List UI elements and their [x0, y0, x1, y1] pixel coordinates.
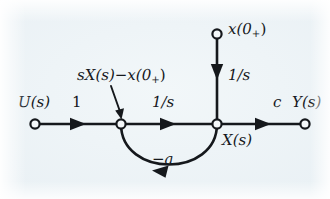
- label-node-output: Y(s): [292, 95, 321, 110]
- node-summing[interactable]: [116, 119, 125, 128]
- label-node-state-text: X(s): [222, 131, 252, 149]
- node-initial-condition[interactable]: [212, 29, 221, 38]
- arrowhead-integrator-branch: [160, 118, 176, 130]
- label-callout-term-b: x(0: [127, 66, 151, 84]
- label-callout-sum-expression: sX(s)−x(0+): [77, 68, 166, 86]
- label-gain-state-to-output: c: [273, 95, 281, 110]
- label-gain-sum-to-state-text: 1/s: [152, 93, 174, 111]
- label-gain-input-to-sum: 1: [72, 95, 82, 110]
- label-gain-state-to-output-text: c: [273, 93, 281, 111]
- signal-flow-graph-figure: U(s) 1 1/s 1/s c Y(s) X(s) x(0+) sX(s)−x…: [0, 0, 330, 199]
- label-gain-feedback-text: −a: [152, 150, 174, 168]
- node-state[interactable]: [212, 119, 221, 128]
- label-callout-minus: −: [115, 66, 128, 84]
- callout-leader-arrowhead: [115, 108, 124, 119]
- label-node-input-text: U(s): [18, 93, 50, 111]
- callout-leader-line: [111, 86, 121, 113]
- arrowhead-input-branch: [70, 118, 86, 130]
- label-node-initial-close: ): [260, 20, 266, 38]
- node-output[interactable]: [300, 119, 309, 128]
- label-gain-initial-to-state-text: 1/s: [228, 66, 250, 84]
- label-callout-sub: +: [151, 75, 160, 86]
- label-gain-input-to-sum-text: 1: [72, 93, 82, 111]
- label-callout-close: ): [160, 66, 166, 84]
- label-gain-sum-to-state: 1/s: [152, 95, 174, 110]
- label-node-state: X(s): [222, 133, 252, 148]
- label-node-input: U(s): [18, 95, 50, 110]
- label-node-initial-main: x(0: [228, 20, 252, 38]
- label-node-output-text: Y(s): [292, 93, 321, 111]
- label-callout-term-a: sX(s): [77, 66, 115, 84]
- arrowhead-initial-condition-branch: [211, 64, 223, 80]
- label-gain-feedback: −a: [152, 152, 174, 167]
- label-node-initial-condition: x(0+): [228, 22, 266, 40]
- node-input[interactable]: [30, 119, 39, 128]
- label-gain-initial-to-state: 1/s: [228, 68, 250, 83]
- arrowhead-output-branch: [255, 118, 271, 130]
